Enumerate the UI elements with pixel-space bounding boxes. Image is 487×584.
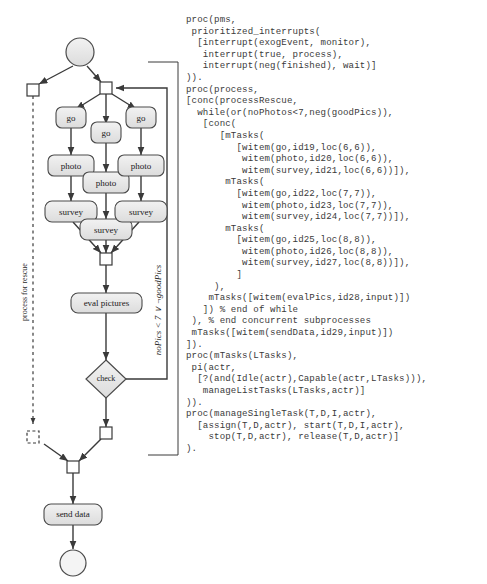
node-final-join-gateway[interactable] — [67, 461, 79, 473]
process-diagram-panel: go go go photo photo photo — [0, 0, 182, 584]
task-label: go — [67, 113, 77, 123]
node-task-photo-3[interactable]: photo — [118, 155, 164, 176]
gateway-label: check — [97, 374, 116, 383]
node-end-event[interactable] — [60, 550, 86, 576]
code-listing-panel: proc(pms, prioritized_interrupts( [inter… — [186, 14, 487, 580]
node-task-send-data[interactable]: send data — [44, 504, 102, 525]
code-block-proc-manage-single-task: proc(manageSingleTask(T,D,I,actr), [assi… — [186, 408, 487, 454]
process-diagram: go go go photo photo photo — [0, 0, 182, 584]
node-task-eval-pictures[interactable]: eval pictures — [71, 293, 142, 313]
task-label: eval pictures — [84, 298, 130, 308]
task-label: photo — [61, 161, 82, 171]
task-label: go — [137, 113, 147, 123]
code-block-proc-pms: proc(pms, prioritized_interrupts( [inter… — [186, 14, 487, 84]
node-task-survey-3[interactable]: survey — [115, 201, 167, 222]
node-task-go-2[interactable]: go — [91, 122, 121, 143]
code-block-proc-process: proc(process, [conc(processRescue, while… — [186, 84, 487, 351]
node-join-main-gateway[interactable] — [100, 253, 112, 265]
code-block-proc-mtasks: proc(mTasks(LTasks), pi(actr, [?(and(Idl… — [186, 350, 487, 408]
node-task-go-1[interactable]: go — [56, 107, 86, 128]
swimlane-label: process for rescue — [20, 263, 29, 321]
task-label: go — [102, 128, 112, 138]
task-label: photo — [131, 161, 152, 171]
task-label: photo — [96, 178, 117, 188]
node-gateway-check[interactable]: check — [86, 360, 126, 398]
node-rescue-lane-end-gateway[interactable] — [27, 431, 39, 443]
screenshot-root: go go go photo photo photo — [0, 0, 487, 584]
task-label: survey — [59, 207, 83, 217]
task-label: survey — [94, 225, 118, 235]
task-label: send data — [56, 509, 90, 519]
node-task-go-3[interactable]: go — [126, 107, 156, 128]
task-label: survey — [129, 207, 153, 217]
loop-condition-label: noPics < 7 ∨ ¬goodPics — [153, 264, 163, 355]
node-fork-main-gateway[interactable] — [100, 82, 112, 94]
node-after-check-gateway[interactable] — [100, 427, 112, 439]
node-split-left-gateway[interactable] — [27, 84, 39, 96]
node-start-event[interactable] — [66, 38, 94, 66]
